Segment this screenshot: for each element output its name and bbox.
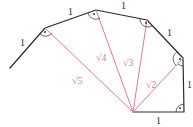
spoke-label-sqrt4: √4: [96, 52, 107, 63]
spoke-label-sqrt3: √3: [123, 57, 134, 68]
right-angle-marker-E: [176, 104, 184, 112]
spoke-label-sqrt5: √5: [72, 75, 83, 86]
edge-label-5: 1: [187, 79, 192, 90]
spoke-sqrt3: [133, 20, 147, 112]
edge-label-1: 1: [20, 37, 25, 48]
theodorus-spiral-diagram: 1 1 1 1 1 1 √2 √3 √4 √5: [0, 0, 193, 127]
edge-label-4: 1: [167, 27, 172, 38]
edge-label-3: 1: [121, 0, 126, 11]
edge-label-2: 1: [68, 6, 73, 17]
edge-label-6: 1: [156, 115, 161, 126]
spoke-label-sqrt2: √2: [146, 79, 157, 90]
spoke-sqrt5: [45, 28, 133, 112]
spoke-sqrt2: [133, 58, 183, 112]
